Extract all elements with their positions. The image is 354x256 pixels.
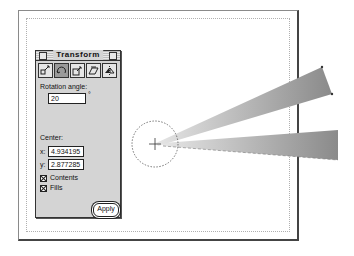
palette-title: Transform <box>53 50 103 60</box>
skew-tool-icon <box>88 65 99 76</box>
rotation-angle-label: Rotation angle: <box>40 83 87 90</box>
center-y-input[interactable]: 2.877285 <box>48 159 84 170</box>
center-x-input[interactable]: 4.934195 <box>48 146 84 157</box>
fills-label: Fills <box>50 184 62 191</box>
skew-tool-button[interactable] <box>86 63 101 78</box>
contents-checkbox[interactable] <box>40 175 47 182</box>
scale-tool-button[interactable] <box>70 63 85 78</box>
reflect-tool-icon <box>104 65 115 76</box>
scale-tool-icon <box>72 65 83 76</box>
move-tool-button[interactable] <box>38 63 53 78</box>
tool-row <box>36 61 120 78</box>
contents-label: Contents <box>50 174 78 181</box>
transform-palette: Transform Rotation angle: 20 ° Center: x… <box>35 50 121 218</box>
reflect-tool-button[interactable] <box>102 63 117 78</box>
rotate-tool-icon <box>56 65 67 76</box>
apply-button[interactable]: Apply <box>93 203 119 217</box>
anchor-point[interactable] <box>331 93 333 95</box>
anchor-point[interactable] <box>321 66 323 68</box>
y-label: y: <box>40 161 45 168</box>
degree-symbol: ° <box>88 91 91 98</box>
close-box-icon[interactable] <box>39 52 47 60</box>
rotation-angle-input[interactable]: 20 <box>48 93 86 104</box>
zoom-box-icon[interactable] <box>109 52 117 60</box>
rotate-tool-button[interactable] <box>54 63 69 78</box>
x-label: x: <box>40 148 45 155</box>
fills-checkbox[interactable] <box>40 185 47 192</box>
center-label: Center: <box>40 134 63 141</box>
move-tool-icon <box>40 65 51 76</box>
palette-titlebar[interactable]: Transform <box>36 51 120 61</box>
